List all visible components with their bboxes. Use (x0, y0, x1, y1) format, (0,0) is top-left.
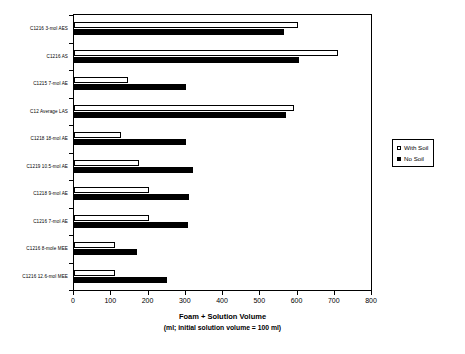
legend-swatch-filled-icon (397, 157, 401, 161)
y-axis-tick (69, 208, 73, 209)
y-axis-label: C1219 10.5-mol AE (0, 153, 71, 181)
bar (74, 249, 137, 255)
bar (74, 29, 284, 35)
bar (74, 84, 186, 90)
bar (74, 167, 193, 173)
y-axis-label: C1216 7-mol AE (0, 208, 71, 236)
y-axis-tick (69, 43, 73, 44)
y-axis-tick (69, 180, 73, 181)
x-axis-tick (371, 291, 372, 295)
y-axis-tick (69, 263, 73, 264)
legend-label: With Soil (404, 144, 428, 151)
x-axis-tick (73, 291, 74, 295)
y-axis-label: C1216 8-mole MEE (0, 235, 71, 263)
legend: With Soil No Soil (392, 139, 434, 167)
bar (74, 187, 149, 193)
bar (74, 270, 115, 276)
y-axis-tick (69, 235, 73, 236)
bar (74, 222, 188, 228)
y-axis-tick (69, 70, 73, 71)
x-axis-tick (222, 291, 223, 295)
y-axis-label: C12 Average LAS (0, 98, 71, 126)
bar (74, 105, 294, 111)
x-axis-tick (297, 291, 298, 295)
x-axis-tick (334, 291, 335, 295)
bar (74, 242, 115, 248)
x-axis-tick-label: 400 (216, 297, 228, 304)
x-axis-tick-label: 200 (142, 297, 154, 304)
x-axis-title-line2: (ml; initial solution volume = 100 ml) (73, 323, 372, 333)
bar (74, 215, 149, 221)
y-axis-tick (69, 125, 73, 126)
bar (74, 50, 338, 56)
bar (74, 277, 167, 283)
y-axis-label: C1218 9-mol AE (0, 180, 71, 208)
y-axis-tick (69, 15, 73, 16)
bar-group (74, 15, 372, 43)
bar-group (74, 235, 372, 263)
x-axis-tick (110, 291, 111, 295)
bar-group (74, 180, 372, 208)
y-axis-label: C1216 12.6-mol MEE (0, 263, 71, 291)
legend-item-no-soil: No Soil (397, 155, 428, 162)
x-axis-tick (259, 291, 260, 295)
y-axis-tick (69, 153, 73, 154)
bar-group (74, 125, 372, 153)
bar (74, 112, 286, 118)
x-axis-title: Foam + Solution Volume (ml; initial solu… (73, 312, 372, 333)
bar (74, 22, 298, 28)
y-axis-label: C1216 AS (0, 43, 71, 71)
x-axis-tick (148, 291, 149, 295)
bar-group (74, 208, 372, 236)
x-axis-tick-label: 0 (71, 297, 75, 304)
y-axis-label: C1218 18-mol AE (0, 125, 71, 153)
x-axis-tick-label: 700 (328, 297, 340, 304)
x-axis-tick-label: 500 (253, 297, 265, 304)
bar (74, 194, 189, 200)
y-axis-label: C1216 3-mol AES (0, 15, 71, 43)
y-axis-label: C1215 7-mol AE (0, 70, 71, 98)
bar-group (74, 263, 372, 291)
x-axis-tick (185, 291, 186, 295)
bar (74, 160, 139, 166)
x-axis-tick-label: 100 (104, 297, 116, 304)
legend-item-with-soil: With Soil (397, 144, 428, 151)
bar (74, 77, 128, 83)
legend-label: No Soil (404, 155, 424, 162)
bar-group (74, 70, 372, 98)
bar-group (74, 98, 372, 126)
bar (74, 57, 299, 63)
legend-swatch-hollow-icon (397, 146, 401, 150)
bar (74, 139, 186, 145)
bar-chart: C1216 3-mol AES C1216 AS C1215 7-mol AE … (0, 0, 465, 354)
bar-rows (74, 15, 372, 290)
bar (74, 132, 121, 138)
y-axis-labels: C1216 3-mol AES C1216 AS C1215 7-mol AE … (0, 15, 71, 290)
x-axis-title-line1: Foam + Solution Volume (73, 312, 372, 323)
x-axis-tick-label: 300 (179, 297, 191, 304)
bar-group (74, 153, 372, 181)
x-axis-tick-label: 800 (365, 297, 377, 304)
y-axis-tick (69, 98, 73, 99)
bar-group (74, 43, 372, 71)
x-axis-tick-label: 600 (291, 297, 303, 304)
